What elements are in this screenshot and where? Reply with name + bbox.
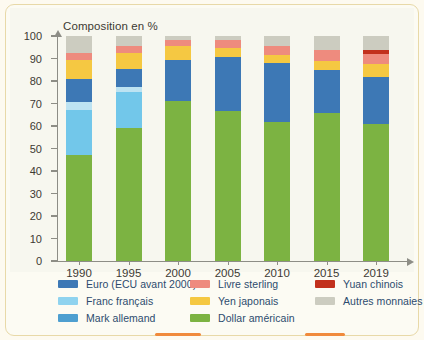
bar-column	[116, 36, 142, 261]
bar-segment	[215, 40, 241, 48]
bar-segment	[215, 57, 241, 111]
bar-segment	[363, 36, 389, 50]
bar-segment	[116, 53, 142, 69]
bar-segment	[116, 46, 142, 53]
bar-segment	[165, 40, 191, 46]
bar-segment	[66, 53, 92, 60]
bar-segment	[264, 36, 290, 46]
bar-segment	[314, 70, 340, 113]
bar-column	[66, 36, 92, 261]
bar-segment	[66, 60, 92, 79]
bar-segment	[314, 61, 340, 70]
bar-segment	[116, 69, 142, 87]
legend-label: Mark allemand	[86, 312, 156, 324]
bar-column	[215, 36, 241, 261]
bar-segment	[314, 113, 340, 262]
legend-swatch	[58, 280, 78, 288]
legend-item[interactable]: Yuan chinois	[315, 278, 403, 290]
bar-segment	[66, 155, 92, 261]
bar-segment	[165, 101, 191, 261]
bar-segment	[264, 63, 290, 122]
legend-swatch	[58, 314, 78, 322]
bar-segment	[165, 36, 191, 40]
legend-swatch	[190, 297, 210, 305]
bar-segment	[314, 36, 340, 50]
legend-swatch	[58, 297, 78, 305]
legend-swatch	[315, 297, 335, 305]
bar-segment	[215, 48, 241, 57]
bar-segment	[165, 46, 191, 60]
bar-column	[314, 36, 340, 261]
bar-segment	[66, 36, 92, 53]
legend-item[interactable]: Euro (ECU avant 2000)	[58, 278, 196, 290]
accent-segment-right	[305, 333, 345, 336]
bar-segment	[215, 36, 241, 40]
bar-segment	[363, 64, 389, 76]
bar-segment	[363, 77, 389, 124]
legend-item[interactable]: Autres monnaies	[315, 295, 423, 307]
legend-swatch	[190, 280, 210, 288]
bar-segment	[363, 124, 389, 261]
bar-segment	[363, 54, 389, 64]
plot-area: Composition en % 0102030405060708090100 …	[10, 8, 414, 272]
legend-swatch	[315, 280, 335, 288]
bar-segment	[363, 50, 389, 55]
bar-column	[363, 36, 389, 261]
legend-label: Dollar américain	[218, 312, 295, 324]
accent-segment-left	[155, 333, 201, 336]
bar-segment	[116, 92, 142, 128]
legend-item[interactable]: Yen japonais	[190, 295, 278, 307]
legend-item[interactable]: Dollar américain	[190, 312, 295, 324]
bar-segment	[264, 55, 290, 63]
decorative-accent-bar	[5, 333, 419, 336]
bar-segment	[116, 87, 142, 93]
bar-column	[165, 36, 191, 261]
legend-label: Euro (ECU avant 2000)	[86, 278, 196, 290]
chart-legend: Euro (ECU avant 2000)Franc françaisMark …	[10, 276, 414, 330]
legend-label: Autres monnaies	[343, 295, 423, 307]
legend-label: Franc français	[86, 295, 153, 307]
bar-segment	[165, 60, 191, 102]
legend-item[interactable]: Livre sterling	[190, 278, 278, 290]
legend-item[interactable]: Franc français	[58, 295, 153, 307]
legend-label: Yuan chinois	[343, 278, 403, 290]
bar-segment	[66, 102, 92, 110]
legend-label: Yen japonais	[218, 295, 278, 307]
bar-segment	[66, 79, 92, 103]
bar-column	[264, 36, 290, 261]
legend-item[interactable]: Mark allemand	[58, 312, 156, 324]
legend-label: Livre sterling	[218, 278, 278, 290]
bar-segment	[314, 50, 340, 61]
bar-segment	[215, 111, 241, 261]
bar-segment	[264, 122, 290, 262]
bars-layer	[10, 8, 414, 272]
bar-segment	[116, 36, 142, 46]
bar-segment	[264, 46, 290, 55]
legend-swatch	[190, 314, 210, 322]
bar-segment	[66, 110, 92, 155]
bar-segment	[116, 128, 142, 261]
chart-page: Composition en % 0102030405060708090100 …	[0, 0, 424, 340]
